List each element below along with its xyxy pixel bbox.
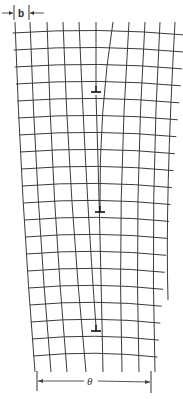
- spacing-label: b: [18, 8, 24, 19]
- lattice-plane-horizontal: [24, 217, 169, 221]
- edge-dislocation-icon: [91, 86, 101, 92]
- lattice-grid: [13, 22, 183, 372]
- lattice-plane-horizontal: [15, 64, 182, 68]
- lattice-plane-horizontal: [28, 268, 165, 272]
- lattice-plane-vertical: [30, 22, 51, 372]
- lattice-plane-vertical: [137, 22, 145, 372]
- lattice-plane-horizontal: [18, 115, 178, 119]
- lattice-plane-horizontal: [30, 302, 162, 306]
- edge-dislocation-icon: [95, 206, 105, 212]
- lattice-plane-vertical: [79, 22, 96, 326]
- arrowhead-right-icon: [9, 11, 13, 15]
- lattice-plane-horizontal: [23, 200, 170, 204]
- lattice-plane-horizontal: [26, 234, 168, 238]
- edge-dislocation-icon: [91, 325, 101, 331]
- lattice-plane-vertical: [100, 22, 113, 207]
- lattice-plane-vertical: [167, 22, 175, 300]
- lattice-plane-horizontal: [16, 81, 181, 85]
- lattice-plane-horizontal: [17, 98, 179, 102]
- lattice-plane-vertical: [121, 22, 129, 372]
- lattice-plane-horizontal: [32, 336, 159, 340]
- spacing-dimension: b: [2, 5, 44, 20]
- lattice-plane-vertical: [153, 22, 160, 372]
- lattice-plane-horizontal: [27, 251, 167, 255]
- lattice-plane-horizontal: [29, 285, 164, 289]
- lattice-plane-horizontal: [21, 166, 173, 170]
- angle-label: θ: [87, 375, 93, 387]
- lattice-plane-horizontal: [13, 30, 183, 35]
- dislocation-symbols: [91, 86, 105, 331]
- arrowhead-left-icon: [38, 379, 43, 383]
- arrowhead-right-icon: [145, 380, 150, 384]
- arrowhead-left-icon: [30, 11, 34, 15]
- angle-arrow-right: [98, 381, 150, 382]
- lattice-plane-horizontal: [14, 47, 183, 52]
- angle-dimension: θ: [37, 371, 151, 393]
- bent-lattice-diagram: b θ: [0, 0, 183, 399]
- lattice-plane-horizontal: [22, 183, 172, 187]
